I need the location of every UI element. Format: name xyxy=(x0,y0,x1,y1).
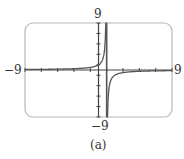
x-max-label: 9 xyxy=(174,64,182,76)
figure-caption: (a) xyxy=(90,139,107,151)
curve-branch xyxy=(25,23,107,69)
curve-branch xyxy=(107,71,172,117)
y-max-label: 9 xyxy=(94,8,102,20)
x-min-label: −9 xyxy=(4,64,22,76)
graph-figure xyxy=(0,0,184,159)
axes xyxy=(25,23,172,117)
y-min-label: −9 xyxy=(91,120,109,132)
